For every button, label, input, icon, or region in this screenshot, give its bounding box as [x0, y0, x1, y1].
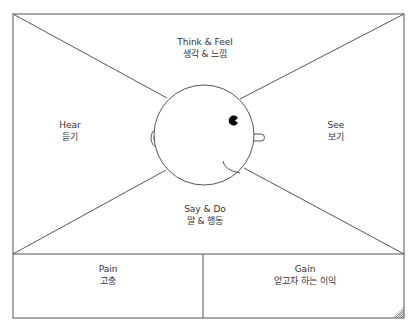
section-see: See 보기 [328, 119, 345, 143]
diagonal-bottom-right [244, 168, 404, 254]
section-think-feel: Think & Feel 생각 & 느낌 [177, 36, 233, 60]
say-do-label-en: Say & Do [184, 203, 226, 215]
see-label-en: See [328, 119, 345, 131]
gain-label-en: Gain [274, 263, 336, 275]
pain-label-ko: 고충 [99, 275, 118, 287]
section-say-do: Say & Do 말 & 행동 [184, 203, 226, 227]
diagonal-bottom-left [13, 170, 166, 254]
diagonal-top-left [13, 14, 167, 98]
section-gain: Gain 얻고자 하는 이익 [274, 263, 336, 287]
pain-label-en: Pain [99, 263, 118, 275]
say-do-label-ko: 말 & 행동 [184, 215, 226, 227]
resize-grip-icon[interactable] [393, 307, 404, 318]
section-hear: Hear 듣기 [59, 119, 81, 143]
think-feel-label-ko: 생각 & 느낌 [177, 48, 233, 60]
gain-label-ko: 얻고자 하는 이익 [274, 275, 336, 287]
section-pain: Pain 고충 [99, 263, 118, 287]
hear-label-ko: 듣기 [59, 131, 81, 143]
see-label-ko: 보기 [328, 131, 345, 143]
nose-icon [253, 134, 265, 141]
think-feel-label-en: Think & Feel [177, 36, 233, 48]
hear-label-en: Hear [59, 119, 81, 131]
diagonal-top-right [240, 14, 404, 99]
